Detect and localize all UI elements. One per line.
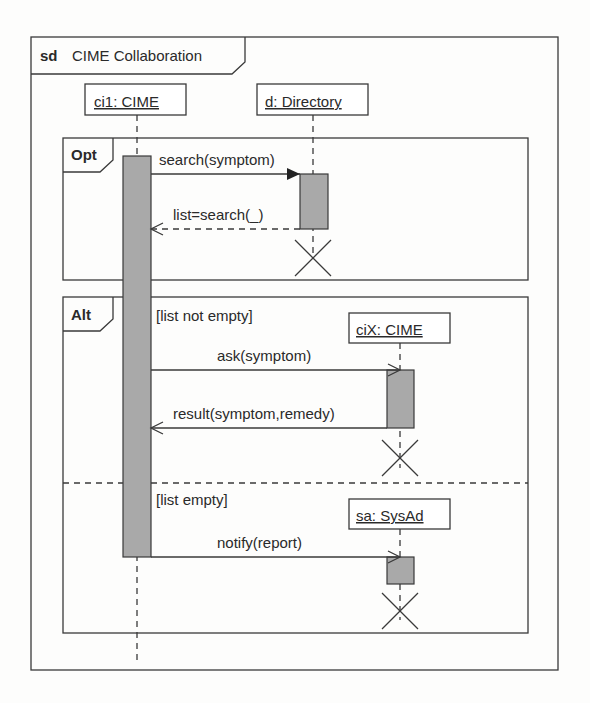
lifeline-label-ciX: ciX: CIME [356,321,423,338]
message-label-search: search(symptom) [159,151,275,168]
sequence-diagram: sd CIME Collaboration ci1: CIME d: Direc… [0,0,590,703]
destruction-d [295,240,331,276]
message-label-result: result(symptom,remedy) [173,405,335,422]
activation-ci1 [123,156,151,557]
frame-title: CIME Collaboration [72,47,202,64]
guard-list-not-empty: [list not empty] [156,307,253,324]
lifeline-label-sa: sa: SysAd [356,507,424,524]
lifeline-label-d: d: Directory [265,93,342,110]
guard-list-empty: [list empty] [156,491,228,508]
fragment-opt-operator: Opt [71,146,97,163]
activation-ciX [387,370,414,428]
fragment-alt-operator: Alt [71,306,91,323]
message-label-notify: notify(report) [217,534,302,551]
frame-keyword: sd [40,47,58,64]
sync-arrowhead-icon [287,168,300,180]
message-label-reply: list=search(_) [173,206,263,223]
message-label-ask: ask(symptom) [217,347,311,364]
lifeline-label-ci1: ci1: CIME [94,93,159,110]
activation-d [300,174,328,229]
